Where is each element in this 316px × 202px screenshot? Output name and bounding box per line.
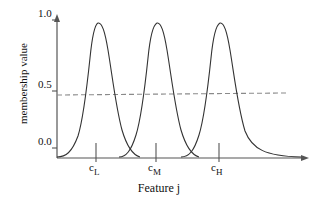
y-axis bbox=[54, 14, 60, 158]
x-tick-cm-subscript: M bbox=[153, 167, 161, 177]
x-tick-label-ch: cH bbox=[211, 162, 222, 173]
y-tick-label-1: 1.0 bbox=[38, 8, 52, 19]
y-tick-label-0-5: 0.5 bbox=[38, 79, 52, 90]
y-tick-label-0-0: 0.0 bbox=[38, 136, 52, 147]
threshold-dashed-line bbox=[57, 93, 286, 95]
x-tick-label-cl: cL bbox=[89, 162, 99, 173]
membership-curve-high bbox=[181, 23, 301, 157]
membership-curve-low bbox=[57, 23, 140, 157]
x-axis-ticks bbox=[96, 143, 219, 162]
membership-curve-medium bbox=[119, 23, 199, 157]
x-axis bbox=[57, 155, 309, 161]
y-axis-title: membership value bbox=[18, 32, 29, 136]
membership-function-figure: 1.0 0.5 0.0 membership value cL cM cH Fe… bbox=[0, 0, 316, 202]
x-tick-cl-subscript: L bbox=[94, 167, 100, 177]
x-tick-ch-subscript: H bbox=[216, 167, 223, 177]
y-axis-ticks bbox=[52, 20, 57, 148]
x-tick-label-cm: cM bbox=[148, 162, 161, 173]
x-axis-title: Feature j bbox=[0, 182, 316, 194]
